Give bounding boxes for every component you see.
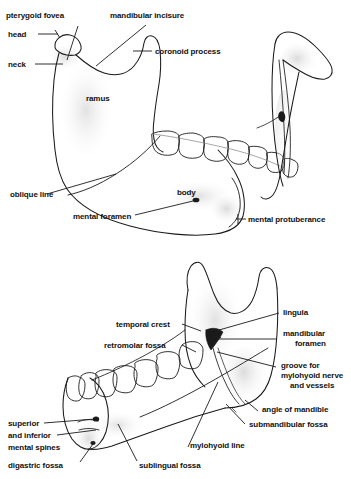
label-mandibular-foramen-line2: foramen <box>295 339 326 349</box>
figure-canvas: pterygoid fovea mandibular incisure head… <box>0 0 351 479</box>
label-submandibular-fossa: submandibular fossa <box>249 420 328 430</box>
label-mandibular-incisure: mandibular incisure <box>110 11 184 21</box>
label-mandibular-foramen-line1: mandibular <box>283 329 325 339</box>
label-retromolar-fossa: retromolar fossa <box>104 341 166 351</box>
label-mylohyoid-line: mylohyoid line <box>190 441 245 451</box>
label-lingula: lingula <box>283 308 308 318</box>
label-mental-foramen: mental foramen <box>73 212 131 222</box>
label-mental-spines: mental spines <box>8 443 60 453</box>
label-superior: superior <box>8 419 39 429</box>
medial-ramus-shading <box>189 276 241 364</box>
label-oblique-line: oblique line <box>10 190 53 200</box>
label-mental-protuberance: mental protuberance <box>248 215 325 225</box>
chin-shading <box>212 196 244 224</box>
digastric-fossa-shading <box>76 422 104 458</box>
label-neck: neck <box>8 60 26 70</box>
label-coronoid-process: coronoid process <box>155 47 221 57</box>
label-ramus: ramus <box>86 94 110 104</box>
label-groove-line2: mylohyoid nerve <box>281 371 343 381</box>
label-sublingual-fossa: sublingual fossa <box>139 461 201 471</box>
mental-foramen-marker <box>193 198 200 203</box>
ramus-head-shading <box>280 44 318 76</box>
ramus-shading <box>60 62 112 158</box>
label-angle-of-mandible: angle of mandible <box>262 405 328 415</box>
label-pterygoid-fovea: pterygoid fovea <box>6 11 64 21</box>
label-and-inferior: and inferior <box>8 431 51 441</box>
label-groove-line3: and vessels <box>290 381 334 391</box>
label-digastric-fossa: digastric fossa <box>8 461 63 471</box>
label-head: head <box>8 30 26 40</box>
label-body: body <box>177 188 196 198</box>
label-temporal-crest: temporal crest <box>116 320 170 330</box>
label-groove-line1: groove for <box>281 361 320 371</box>
